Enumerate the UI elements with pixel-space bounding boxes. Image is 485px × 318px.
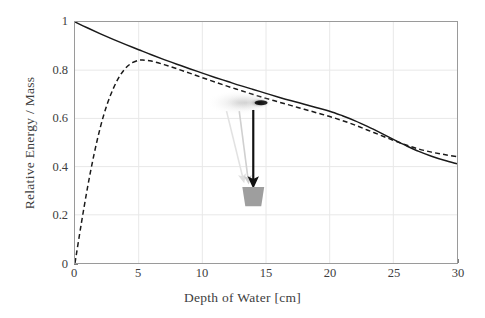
- x-tick-label: 30: [452, 266, 465, 281]
- y-tick-label: 1: [28, 14, 68, 29]
- y-tick-label: 0.2: [28, 208, 68, 223]
- x-axis-label: Depth of Water [cm]: [0, 290, 485, 306]
- y-tick-label: 0.6: [28, 111, 68, 126]
- x-tick-label: 0: [71, 266, 77, 281]
- x-tick-label: 25: [388, 266, 401, 281]
- y-tick-label: 0: [28, 257, 68, 272]
- x-tick-label: 20: [324, 266, 337, 281]
- x-tick-label: 10: [196, 266, 209, 281]
- y-tick-mark: [74, 264, 78, 265]
- x-tick-mark: [458, 259, 459, 263]
- plot-area: [74, 21, 458, 264]
- x-tick-label: 5: [135, 266, 141, 281]
- chart-figure: Relative Energy / Mass Depth of Water [c…: [0, 0, 485, 318]
- y-axis-label: Relative Energy / Mass: [22, 22, 38, 265]
- y-tick-label: 0.8: [28, 62, 68, 77]
- spray-illustration: [75, 22, 457, 263]
- y-tick-label: 0.4: [28, 159, 68, 174]
- spray-nucleus: [255, 100, 268, 105]
- collection-bucket: [242, 187, 264, 206]
- x-tick-label: 15: [260, 266, 273, 281]
